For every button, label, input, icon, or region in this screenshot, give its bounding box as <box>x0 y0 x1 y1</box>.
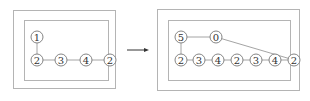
before-node: 2 <box>31 54 43 66</box>
before-node: 3 <box>55 54 67 66</box>
nodes-layer: 12342502342342 <box>31 31 300 66</box>
node-label: 2 <box>107 55 113 66</box>
node-label: 2 <box>234 55 240 66</box>
after-node: 3 <box>250 54 262 66</box>
diagram-canvas: 12342502342342 <box>0 0 310 101</box>
node-label: 4 <box>83 55 89 66</box>
after-outer-frame <box>158 10 300 91</box>
node-label: 2 <box>34 55 40 66</box>
after-node: 0 <box>210 31 222 43</box>
before-node: 2 <box>104 54 116 66</box>
before-node: 1 <box>31 31 43 43</box>
node-label: 1 <box>34 32 40 43</box>
after-node: 5 <box>175 31 187 43</box>
after-node: 2 <box>288 54 300 66</box>
node-label: 3 <box>253 55 259 66</box>
node-label: 3 <box>58 55 64 66</box>
node-label: 2 <box>291 55 297 66</box>
after-node: 4 <box>212 54 224 66</box>
node-label: 2 <box>178 55 184 66</box>
after-node: 3 <box>193 54 205 66</box>
node-label: 5 <box>178 32 184 43</box>
after-node: 2 <box>175 54 187 66</box>
node-label: 4 <box>215 55 221 66</box>
node-label: 4 <box>272 55 278 66</box>
before-outer-frame <box>14 11 116 89</box>
before-node: 4 <box>80 54 92 66</box>
node-label: 3 <box>196 55 202 66</box>
after-node: 2 <box>231 54 243 66</box>
transition-arrow <box>127 48 149 52</box>
after-node: 4 <box>269 54 281 66</box>
after-inner-frame <box>169 21 291 81</box>
node-label: 0 <box>213 32 219 43</box>
